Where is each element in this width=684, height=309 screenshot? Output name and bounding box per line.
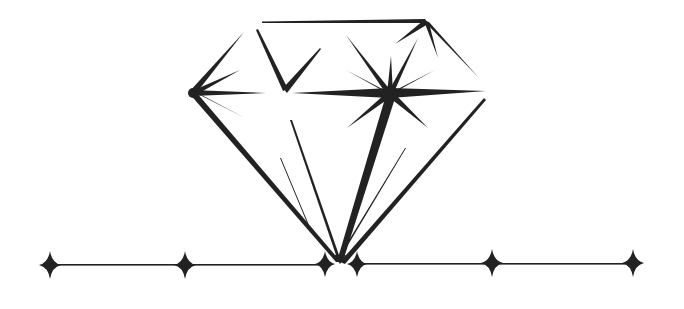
diamond-upper-left-edge <box>189 32 244 96</box>
diamond-icon <box>0 0 684 309</box>
sparkle-icon <box>174 251 196 279</box>
girdle-left <box>192 90 266 96</box>
diamond-upper-right-edge <box>423 20 479 78</box>
pavilion-line <box>280 158 311 230</box>
corner-spike <box>395 20 428 44</box>
sparkle-icon <box>622 249 644 277</box>
star-sparkle-icon <box>346 35 435 128</box>
sparkle-icon <box>481 249 503 277</box>
diamond-lower-left-edge <box>188 92 341 262</box>
diamond-illustration <box>0 0 684 309</box>
v-facet-right <box>283 48 321 93</box>
v-facet-left <box>256 29 288 91</box>
diamond-top-edge <box>262 19 428 23</box>
sparkle-icon <box>39 251 61 279</box>
